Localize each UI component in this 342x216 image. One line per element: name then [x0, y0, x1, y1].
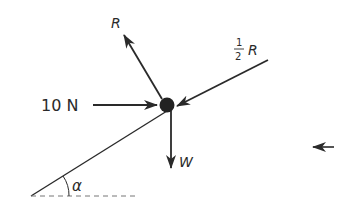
force-arrow-half-R	[177, 60, 268, 106]
force-arrow-R	[124, 35, 162, 99]
angle-arc	[63, 176, 69, 196]
angle-label: α	[72, 177, 82, 195]
force-label-10N: 10 N	[41, 96, 78, 115]
force-label-half-R-numerator: 1	[236, 37, 242, 48]
incline-line	[31, 111, 167, 196]
force-label-W: W	[179, 154, 194, 170]
force-label-half-R-denominator: 2	[235, 51, 241, 62]
force-label-half-R-variable: R	[248, 42, 258, 58]
particle	[160, 98, 175, 113]
force-diagram: α R 1 2 R 10 N W	[0, 0, 342, 216]
force-label-R: R	[111, 15, 121, 31]
